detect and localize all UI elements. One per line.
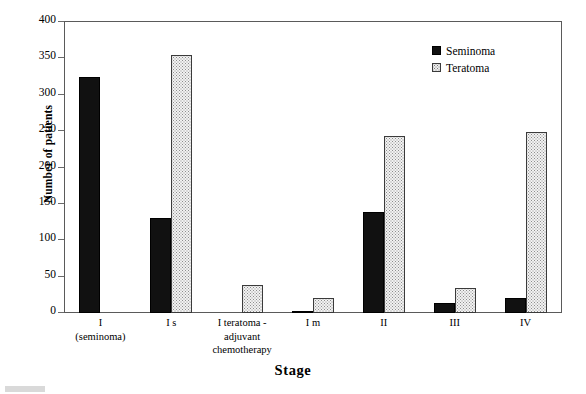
x-axis-title: Stage: [0, 362, 586, 379]
y-axis-tick-label: 50: [16, 269, 56, 281]
bar-teratoma: [171, 55, 192, 313]
x-axis-label-line: IV: [478, 316, 573, 330]
legend-item: Seminoma: [432, 42, 495, 59]
y-axis-tick-label: 300: [16, 87, 56, 99]
bar-group: [207, 22, 278, 313]
page-scan-artifact: [5, 386, 45, 392]
bar-group: [278, 22, 349, 313]
legend-item-label: Teratoma: [446, 62, 489, 74]
bar-seminoma: [434, 303, 455, 313]
legend-item: Teratoma: [432, 59, 495, 76]
bar-group: [348, 22, 419, 313]
bar-group: [136, 22, 207, 313]
bar-seminoma: [292, 311, 313, 313]
y-axis-tick-label: 350: [16, 50, 56, 62]
bar-teratoma: [242, 285, 263, 313]
x-axis-label-line: chemotherapy: [195, 343, 290, 357]
x-axis-label: IV: [478, 316, 573, 330]
legend-item-label: Seminoma: [446, 45, 495, 57]
bar-group: [65, 22, 136, 313]
bar-seminoma: [363, 212, 384, 313]
legend-swatch-icon: [432, 63, 441, 72]
y-axis-tick-label: 150: [16, 196, 56, 208]
y-axis-tick-label: 400: [16, 14, 56, 26]
y-axis-tick-label: 0: [16, 305, 56, 317]
bar-teratoma: [455, 288, 476, 313]
bar-chart-figure: Number of patients 400350300250200150100…: [0, 0, 586, 394]
x-axis-label-line: (seminoma): [53, 330, 148, 344]
legend-swatch-icon: [432, 46, 441, 55]
bar-seminoma: [505, 298, 526, 313]
bar-seminoma: [150, 218, 171, 313]
y-axis-tick-label: 100: [16, 232, 56, 244]
bar-group: [490, 22, 561, 313]
y-axis-tick-label: 250: [16, 123, 56, 135]
x-axis-label-line: adjuvant: [195, 330, 290, 344]
y-axis-tick-label: 200: [16, 160, 56, 172]
bar-teratoma: [313, 298, 334, 313]
chart-legend: SeminomaTeratoma: [432, 42, 495, 76]
bar-seminoma: [79, 77, 100, 313]
bar-teratoma: [384, 136, 405, 314]
bar-teratoma: [526, 132, 547, 313]
